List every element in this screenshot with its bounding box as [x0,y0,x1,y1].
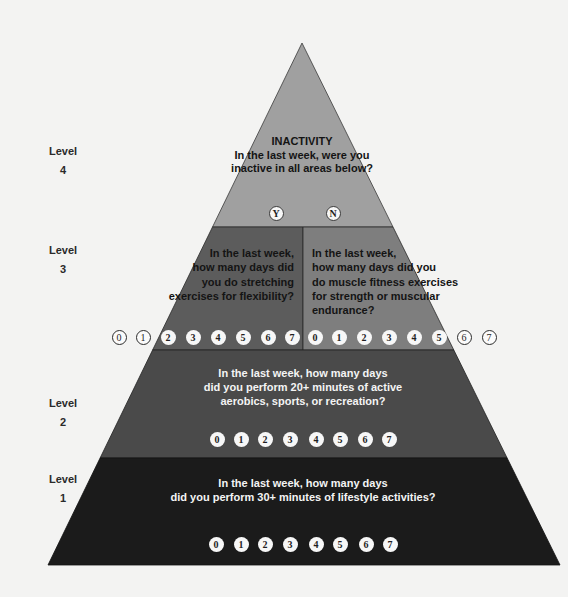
level2-option[interactable]: 6 [358,432,373,447]
level-4-label: Level 4 [43,145,83,177]
level3-left-option[interactable]: 0 [112,330,127,345]
level-3-number: 3 [43,263,83,276]
level2-option[interactable]: 4 [309,432,324,447]
level4-option-no[interactable]: N [326,206,341,221]
level1-option[interactable]: 5 [333,537,348,552]
level1-option[interactable]: 4 [309,537,324,552]
level3-right-line: how many days did you [312,260,482,274]
level4-line: In the last week, were you [192,149,412,163]
level3-left-line: exercises for flexibility? [144,289,294,303]
level-4-word: Level [43,145,83,158]
level1-option[interactable]: 7 [383,537,398,552]
level3-right-option[interactable]: 0 [308,330,323,345]
level-2-label: Level 2 [43,397,83,429]
level1-option[interactable]: 2 [258,537,273,552]
level1-line: did you perform 30+ minutes of lifestyle… [138,490,468,504]
level-2-number: 2 [43,416,83,429]
level-1-number: 1 [43,492,83,505]
level2-option[interactable]: 7 [382,432,397,447]
level2-option[interactable]: 1 [234,432,249,447]
level1-option[interactable]: 6 [359,537,374,552]
level4-line: inactive in all areas below? [192,162,412,176]
level3-left-line: you do stretching [144,275,294,289]
level1-line: In the last week, how many days [138,476,468,490]
level4-title: INACTIVITY [192,135,412,149]
level3-right-option[interactable]: 3 [382,330,397,345]
level3-muscle-fitness-question: In the last week, how many days did you … [312,246,482,317]
level2-option[interactable]: 5 [333,432,348,447]
level3-right-option[interactable]: 5 [432,330,447,345]
level3-right-line: endurance? [312,303,482,317]
level3-right-option[interactable]: 7 [482,330,497,345]
level3-left-option[interactable]: 6 [261,330,276,345]
level3-right-option[interactable]: 4 [407,330,422,345]
level1-option[interactable]: 0 [209,537,224,552]
level-1-label: Level 1 [43,473,83,505]
level3-left-option[interactable]: 3 [186,330,201,345]
level3-right-option[interactable]: 6 [457,330,472,345]
level3-right-line: do muscle fitness exercises [312,275,482,289]
level3-left-option[interactable]: 1 [136,330,151,345]
level-2-word: Level [43,397,83,410]
activity-pyramid-diagram: Level 4 Level 3 Level 2 Level 1 INACTIVI… [0,0,568,597]
level1-tier [48,458,560,565]
level3-left-option[interactable]: 5 [236,330,251,345]
level2-option[interactable]: 0 [210,432,225,447]
level3-left-option[interactable]: 4 [211,330,226,345]
level3-right-line: In the last week, [312,246,482,260]
level1-option[interactable]: 1 [234,537,249,552]
level-3-word: Level [43,244,83,257]
level2-line: aerobics, sports, or recreation? [153,394,453,408]
level3-left-option[interactable]: 2 [161,330,176,345]
level1-lifestyle-question: In the last week, how many days did you … [138,476,468,504]
level1-option[interactable]: 3 [283,537,298,552]
level-4-number: 4 [43,164,83,177]
level3-left-line: In the last week, [144,246,294,260]
level3-right-line: for strength or muscular [312,289,482,303]
level2-line: In the last week, how many days [153,366,453,380]
level-3-label: Level 3 [43,244,83,276]
level2-option[interactable]: 3 [283,432,298,447]
level3-flexibility-question: In the last week, how many days did you … [144,246,294,303]
level2-line: did you perform 20+ minutes of active [153,380,453,394]
level3-right-option[interactable]: 2 [357,330,372,345]
level4-question: INACTIVITY In the last week, were you in… [192,135,412,176]
level2-aerobics-question: In the last week, how many days did you … [153,366,453,408]
level2-option[interactable]: 2 [258,432,273,447]
level4-option-yes[interactable]: Y [269,206,284,221]
level-1-word: Level [43,473,83,486]
level3-left-line: how many days did [144,260,294,274]
level3-right-option[interactable]: 1 [332,330,347,345]
level3-left-option[interactable]: 7 [285,330,300,345]
